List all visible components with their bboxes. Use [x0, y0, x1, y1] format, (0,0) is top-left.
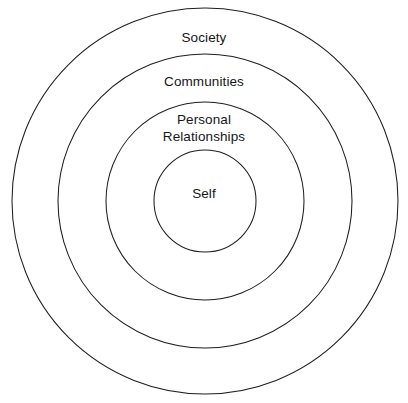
- ring-circle-self: [154, 150, 256, 252]
- concentric-circles-diagram: Society Communities Personal Relationshi…: [0, 0, 408, 403]
- ring-circle-society: [12, 8, 398, 394]
- rings-svg: [0, 0, 408, 403]
- ring-circle-personal-relationships: [106, 102, 304, 300]
- ring-circle-communities: [58, 54, 352, 348]
